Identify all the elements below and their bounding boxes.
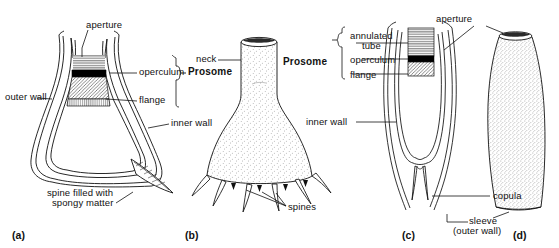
caption-panel-d: (d) (513, 230, 527, 241)
leader-spines-b (246, 190, 286, 206)
label-prosome-a: Prosome (188, 67, 232, 78)
caption-panel-b: (b) (185, 230, 199, 241)
leader-aperture-a (82, 30, 88, 57)
figure-canvas (0, 0, 559, 248)
panel-a-drawing (31, 31, 162, 187)
label-prosome-c: Prosome (283, 57, 327, 68)
label-flange-a: flange (139, 95, 165, 106)
label-flange-c: flange (350, 70, 376, 81)
caption-panel-a: (a) (12, 230, 25, 241)
panel-c-annulated-tube (408, 28, 434, 56)
prosome-brace-c-stem (342, 27, 345, 79)
outer-wall-left-outline (31, 35, 60, 182)
panel-a-annulated-tube (73, 55, 105, 70)
label-spines-b: spines (288, 202, 316, 213)
label-outer-wall-a: outer wall (5, 92, 47, 103)
panel-a-flange-hatch (67, 77, 110, 106)
label-aperture-a: aperture (86, 20, 122, 31)
outer-wall-right-inner-line (114, 37, 156, 182)
label-operculum-c: operculum (350, 55, 395, 66)
prosome-brace-a-tip (172, 55, 176, 104)
outer-wall-base-inner-line (55, 179, 148, 184)
leader-sleeve-c (447, 214, 468, 222)
leader-spine-a (116, 192, 133, 203)
label-aperture-cd: aperture (436, 14, 472, 25)
label-spine-spongy-line2: spongy matter (52, 198, 114, 209)
label-inner-wall-a: inner wall (171, 118, 212, 129)
inner-wall-base-line (63, 174, 137, 178)
leader-aperture-c (444, 26, 474, 50)
label-neck-b: neck (196, 54, 216, 65)
panel-a-spine (131, 159, 173, 193)
aperture-rim-right (114, 31, 119, 35)
panel-d-body (488, 37, 545, 209)
leader-inner-wall-a (148, 124, 169, 128)
panel-d-drawing (488, 32, 545, 210)
panel-c-operculum-band (408, 56, 434, 62)
inner-wall-base-inner-line (67, 170, 133, 174)
caption-panel-c: (c) (402, 230, 415, 241)
panel-a-operculum-band (72, 70, 106, 77)
label-inner-wall-c: inner wall (306, 117, 347, 128)
leader-aperture-d (486, 26, 503, 33)
label-sleeve-line2: (outer wall) (453, 226, 501, 237)
label-annulated-tube-line2: tube (362, 41, 381, 52)
aperture-rim-left (59, 31, 64, 35)
label-copula-c: copula (493, 191, 522, 202)
prosome-brace-c (332, 33, 342, 47)
label-operculum-a: operculum (139, 67, 184, 78)
panel-c-flange-hatch (408, 62, 434, 76)
